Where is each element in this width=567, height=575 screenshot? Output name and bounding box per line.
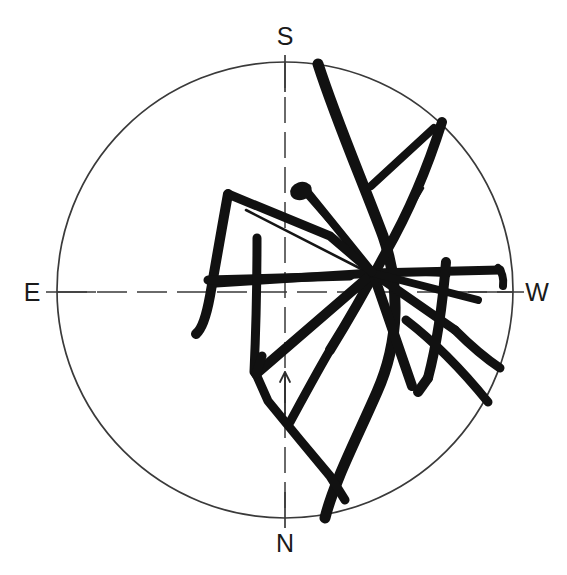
x-cross-right-tail bbox=[418, 378, 428, 392]
crossbar-horizontal bbox=[208, 276, 350, 280]
a-frame-apex-to-right bbox=[228, 194, 372, 272]
compass-label-bottom: N bbox=[276, 529, 294, 557]
axis-arrowhead-icon bbox=[280, 372, 290, 414]
radial-arm-south-west bbox=[256, 273, 373, 374]
a-frame-left-leg bbox=[196, 194, 228, 334]
compass-label-top: S bbox=[277, 22, 294, 50]
west-boundary-stub bbox=[498, 268, 503, 286]
great-circle-upper-right-tail bbox=[290, 350, 330, 422]
compass-label-right: W bbox=[525, 278, 549, 306]
trace-group bbox=[196, 64, 503, 518]
x-cross-right-down bbox=[428, 262, 446, 378]
thin-chords bbox=[246, 188, 449, 276]
stereonet-figure: S N E W bbox=[0, 0, 567, 575]
stereonet-canvas: S N E W bbox=[0, 0, 567, 575]
boundary-arm-bottom-right bbox=[455, 330, 500, 368]
zigzag-lower-left-upper bbox=[256, 356, 262, 374]
compass-label-left: E bbox=[24, 278, 41, 306]
vertical-stub bbox=[254, 238, 257, 372]
zigzag-lower-left bbox=[256, 374, 345, 500]
radial-arm-west bbox=[373, 270, 500, 273]
